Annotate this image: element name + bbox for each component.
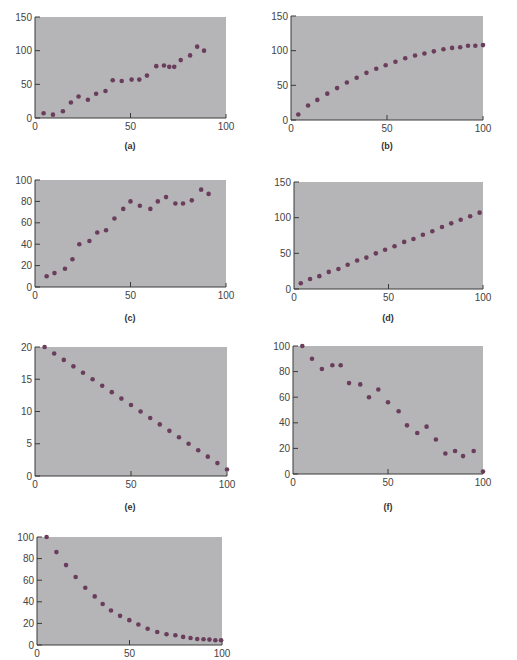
data-point: [83, 585, 88, 590]
data-point: [219, 638, 224, 643]
data-point: [92, 594, 97, 599]
data-point: [213, 638, 218, 643]
plot-area: [37, 537, 222, 645]
x-tick-label: 0: [34, 648, 40, 659]
data-point: [44, 535, 49, 540]
data-point: [54, 550, 59, 555]
data-point: [64, 563, 69, 568]
y-tick-label: 20: [23, 618, 35, 629]
x-tick-label: 50: [124, 648, 136, 659]
y-tick-label: 60: [23, 575, 35, 586]
data-point: [164, 632, 169, 637]
data-point: [195, 637, 200, 642]
data-point: [173, 633, 178, 638]
data-point: [100, 602, 105, 607]
x-tick-label: 100: [214, 648, 231, 659]
data-point: [118, 614, 123, 619]
y-tick-label: 100: [17, 532, 34, 543]
y-tick-label: 80: [23, 553, 35, 564]
y-tick-label: 40: [23, 596, 35, 607]
data-point: [155, 630, 160, 635]
data-point: [136, 622, 141, 627]
data-point: [127, 618, 132, 623]
data-point: [73, 575, 78, 580]
data-point: [145, 627, 150, 632]
data-point: [188, 636, 193, 641]
data-point: [207, 637, 212, 642]
data-point: [109, 608, 114, 613]
data-point: [201, 637, 206, 642]
scatter-plot-g: 020406080100050100: [0, 0, 517, 660]
data-point: [181, 635, 186, 640]
